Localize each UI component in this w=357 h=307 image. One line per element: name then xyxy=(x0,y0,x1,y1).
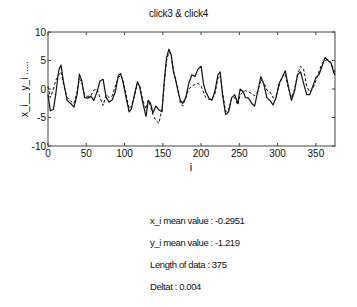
x-axis-label: i xyxy=(190,161,192,173)
data-series xyxy=(48,49,335,123)
svg-text:200: 200 xyxy=(193,148,210,159)
svg-text:0: 0 xyxy=(40,84,46,95)
line-chart: 050100150200250300350-10-50510 i x_i__ y… xyxy=(0,0,357,175)
svg-text:150: 150 xyxy=(154,148,171,159)
svg-text:0: 0 xyxy=(45,148,51,159)
svg-text:300: 300 xyxy=(269,148,286,159)
axes-frame xyxy=(48,32,335,146)
statistics-panel: x_i mean value : -0.2951 y_i mean value … xyxy=(150,210,244,298)
data-length: Length of data : 375 xyxy=(150,254,244,276)
x-mean-value: x_i mean value : -0.2951 xyxy=(150,210,244,232)
svg-text:350: 350 xyxy=(308,148,325,159)
svg-text:50: 50 xyxy=(81,148,93,159)
series-y-i xyxy=(48,52,335,123)
svg-text:-5: -5 xyxy=(37,112,46,123)
series-x-i xyxy=(48,49,335,116)
deltat-value: Deltat : 0.004 xyxy=(150,276,244,298)
svg-text:5: 5 xyxy=(40,55,46,66)
svg-text:-10: -10 xyxy=(32,141,47,152)
svg-text:250: 250 xyxy=(231,148,248,159)
y-mean-value: y_i mean value : -1.219 xyxy=(150,232,244,254)
svg-text:100: 100 xyxy=(116,148,133,159)
svg-text:10: 10 xyxy=(35,27,47,38)
y-axis-label: x_i__ y_i ..... xyxy=(19,61,30,117)
